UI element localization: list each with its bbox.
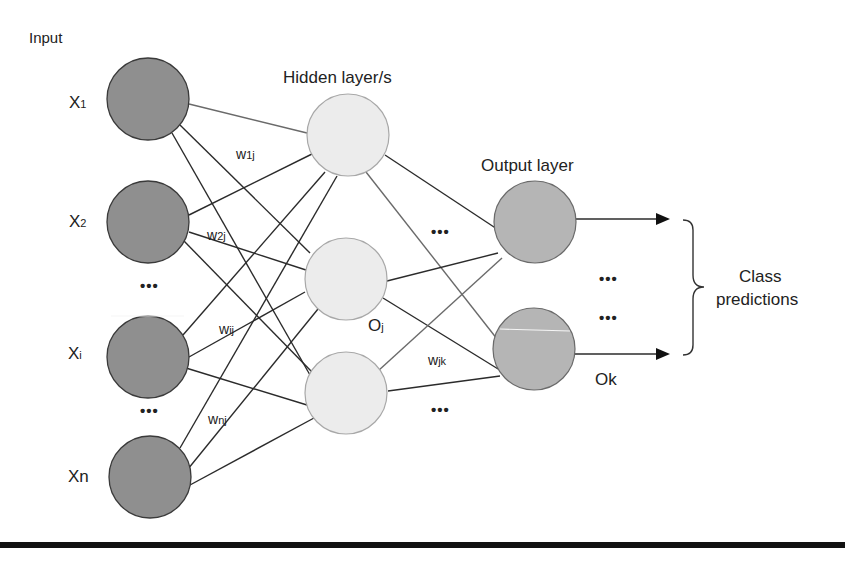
hidden-node-3 bbox=[305, 352, 387, 434]
hidden-output-ellipsis-2: ••• bbox=[431, 402, 450, 417]
input-heading: Input bbox=[29, 30, 62, 45]
output-arrows bbox=[575, 213, 670, 360]
class-predictions-line2: predictions bbox=[716, 291, 798, 308]
hidden-output-ellipsis-1: ••• bbox=[431, 224, 450, 239]
output-ellipsis-2: ••• bbox=[599, 310, 618, 325]
bottom-rule bbox=[0, 542, 845, 548]
class-brace bbox=[683, 220, 704, 355]
input-ellipsis-1: ••• bbox=[140, 278, 159, 293]
input-node-xn bbox=[109, 436, 191, 518]
hidden-heading: Hidden layer/s bbox=[283, 69, 392, 86]
hidden-node-j bbox=[305, 238, 387, 320]
input-label-xn: Xn bbox=[68, 468, 89, 485]
hidden-node-1 bbox=[307, 94, 389, 176]
hidden-layer bbox=[305, 94, 389, 434]
output-ellipsis-1: ••• bbox=[599, 271, 618, 286]
hidden-node-label-oj: Oj bbox=[368, 317, 384, 334]
class-predictions-line1: Class bbox=[739, 268, 782, 285]
output-layer bbox=[493, 181, 576, 390]
input-label-x1: X1 bbox=[69, 94, 86, 111]
input-node-x1 bbox=[107, 58, 189, 140]
weight-wnj: wnj bbox=[208, 412, 227, 426]
input-node-x2 bbox=[107, 181, 189, 263]
weight-w2j: w2j bbox=[207, 228, 226, 242]
input-ellipsis-2: ••• bbox=[140, 403, 159, 418]
output-node-label-ok: Ok bbox=[595, 371, 617, 388]
output-heading: Output layer bbox=[481, 157, 574, 174]
weight-w1j: w1j bbox=[236, 147, 255, 161]
input-label-x2: X2 bbox=[69, 213, 86, 230]
network-diagram bbox=[0, 0, 845, 568]
output-node-k bbox=[493, 308, 575, 390]
output-node-1 bbox=[494, 181, 576, 263]
weight-wjk: wjk bbox=[428, 353, 446, 367]
input-label-xi: Xi bbox=[68, 345, 82, 362]
weight-wij: wij bbox=[219, 322, 234, 336]
input-node-xi bbox=[107, 316, 189, 398]
